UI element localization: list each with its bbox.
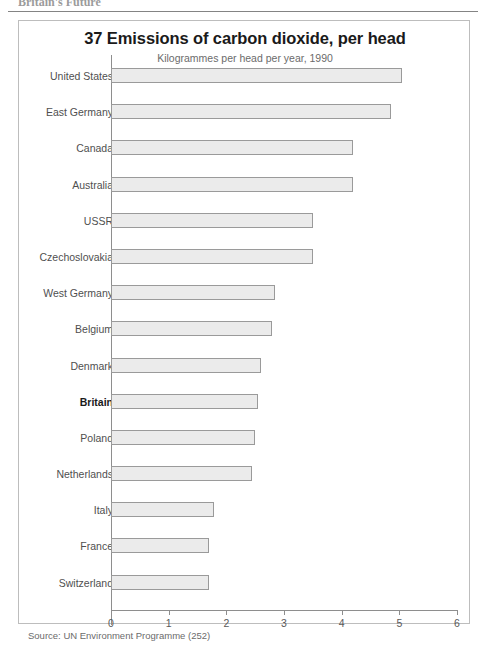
bar-label: Poland [0, 431, 113, 446]
bar-row: Belgium [19, 318, 471, 354]
bar-row: Poland [19, 427, 471, 463]
x-axis-tick-label: 1 [157, 617, 181, 629]
x-axis-tick [457, 610, 458, 615]
bar [111, 575, 209, 590]
bar-row: United States [19, 65, 471, 101]
bar [111, 321, 272, 336]
bar [111, 430, 255, 445]
bar-row: Netherlands [19, 463, 471, 499]
bar [111, 104, 391, 119]
bar-label: Italy [0, 503, 113, 518]
bar [111, 249, 313, 264]
x-axis-tick-label: 6 [445, 617, 469, 629]
bar [111, 285, 275, 300]
header-rule [8, 11, 478, 12]
bar [111, 538, 209, 553]
bar-label: Czechoslovakia [0, 250, 113, 265]
bar [111, 394, 258, 409]
figure-frame: 37 Emissions of carbon dioxide, per head… [18, 20, 470, 624]
x-axis-tick-label: 2 [214, 617, 238, 629]
bar-label: USSR [0, 214, 113, 229]
bar-row: Switzerland [19, 572, 471, 608]
bar-label: Belgium [0, 322, 113, 337]
x-axis-tick [284, 610, 285, 615]
bar [111, 466, 252, 481]
bar [111, 140, 353, 155]
bar-label: Australia [0, 178, 113, 193]
bar-label: Canada [0, 141, 113, 156]
bar-label: Denmark [0, 359, 113, 374]
bar-row: Czechoslovakia [19, 246, 471, 282]
bar-rows: United StatesEast GermanyCanadaAustralia… [19, 65, 471, 608]
bar-row: Canada [19, 137, 471, 173]
bar [111, 358, 261, 373]
bar-row: Italy [19, 499, 471, 535]
x-axis-tick [169, 610, 170, 615]
plot-area: United StatesEast GermanyCanadaAustralia… [19, 21, 471, 625]
bar-row: Denmark [19, 355, 471, 391]
bar [111, 213, 313, 228]
bar-label: France [0, 539, 113, 554]
bar [111, 502, 214, 517]
bar-row: West Germany [19, 282, 471, 318]
bar-label: West Germany [0, 286, 113, 301]
bar [111, 68, 402, 83]
x-axis-tick [111, 610, 112, 615]
source-note: Source: UN Environment Programme (252) [28, 630, 210, 641]
x-axis-tick [226, 610, 227, 615]
x-axis-tick [399, 610, 400, 615]
bar-row: Britain [19, 391, 471, 427]
x-axis-tick-label: 5 [387, 617, 411, 629]
bar-label: East Germany [0, 105, 113, 120]
running-header-text: Britain's Future [18, 0, 218, 8]
bar-row: France [19, 535, 471, 571]
x-axis-tick-label: 0 [99, 617, 123, 629]
bar [111, 177, 353, 192]
x-axis-tick-label: 4 [330, 617, 354, 629]
bar-row: East Germany [19, 101, 471, 137]
bar-label: United States [0, 69, 113, 84]
x-axis-tick-label: 3 [272, 617, 296, 629]
running-header: Britain's Future [18, 0, 218, 10]
bar-row: Australia [19, 174, 471, 210]
x-axis-tick [342, 610, 343, 615]
bar-label: Britain [0, 395, 113, 410]
bar-label: Switzerland [0, 576, 113, 591]
bar-row: USSR [19, 210, 471, 246]
bar-label: Netherlands [0, 467, 113, 482]
